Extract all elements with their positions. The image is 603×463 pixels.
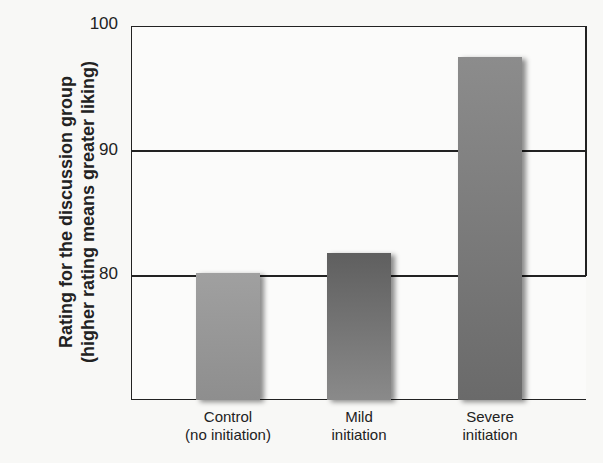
x-label-control-line2: (no initiation) [158, 426, 298, 444]
x-label-control: Control (no initiation) [158, 408, 298, 444]
x-label-mild-line1: Mild [289, 408, 429, 426]
y-axis-label: Rating for the discussion group (higher … [55, 32, 99, 392]
bar-mild [327, 253, 391, 400]
y-axis-label-line2: (higher rating means greater liking) [77, 32, 99, 392]
x-label-severe: Severe initiation [420, 408, 560, 444]
bar-severe [458, 57, 522, 400]
y-axis-label-line1: Rating for the discussion group [55, 32, 77, 392]
x-label-mild-line2: initiation [289, 426, 429, 444]
x-label-severe-line2: initiation [420, 426, 560, 444]
chart: 100 90 80 Rating for the discussion grou… [0, 0, 603, 463]
bar-control [196, 273, 260, 400]
x-label-mild: Mild initiation [289, 408, 429, 444]
x-label-severe-line1: Severe [420, 408, 560, 426]
x-label-control-line1: Control [158, 408, 298, 426]
y-tick-100: 100 [78, 14, 118, 34]
